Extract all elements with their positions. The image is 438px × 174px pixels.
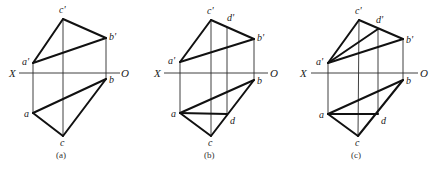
point-label-a: a [24, 108, 29, 119]
figure-b: X O a' b' c' d' a b c d (b) [153, 5, 278, 160]
axis-x-label: X [8, 67, 17, 79]
projector-c [358, 20, 359, 136]
edge-a-b [180, 80, 254, 113]
edge-a-prime-b-prime [180, 39, 254, 62]
point-label-b-prime: b' [109, 31, 117, 42]
edge-a-prime-c-prime [33, 19, 63, 63]
axis-x-label: X [299, 67, 308, 79]
edge-c-b [63, 79, 106, 136]
edge-a-c [328, 114, 358, 136]
point-label-b-prime: b' [257, 32, 265, 43]
edge-a-c [33, 113, 63, 136]
point-label-c: c [355, 137, 360, 148]
point-label-c-prime: c' [207, 5, 214, 16]
edge-c-b [358, 80, 403, 136]
figure-caption: (c) [351, 150, 361, 160]
axis-o-label: O [420, 67, 428, 79]
projection-diagrams-svg: X O a' b' c' a b c (a) X O [0, 0, 438, 174]
edge-a-prime-b-prime [328, 39, 403, 63]
figure-a: X O a' b' c' a b c (a) [8, 4, 129, 160]
point-label-c-prime: c' [355, 5, 362, 16]
edge-a-d [180, 113, 227, 114]
point-label-d-prime: d' [227, 12, 235, 23]
edge-c-prime-b-prime [63, 19, 106, 38]
point-label-a-prime: a' [168, 55, 176, 66]
figure-c: X O a' b' c' d' a b c d (c) [299, 5, 428, 160]
edge-a-c [180, 113, 211, 136]
figure-caption: (a) [56, 150, 66, 160]
point-label-b: b [257, 75, 262, 86]
point-label-b: b [406, 75, 411, 86]
edge-a-prime-c-prime [328, 20, 359, 63]
point-label-b-prime: b' [406, 34, 414, 45]
axis-x-label: X [153, 67, 162, 79]
edge-a-prime-c-prime [180, 20, 211, 62]
point-label-c-prime: c' [59, 4, 66, 15]
edge-a-b [33, 79, 106, 113]
point-label-d: d [230, 115, 236, 126]
point-label-a-prime: a' [316, 56, 324, 67]
point-label-d: d [381, 115, 387, 126]
point-label-b: b [109, 74, 114, 85]
point-label-a: a [171, 108, 176, 119]
point-label-a: a [319, 109, 324, 120]
point-label-d-prime: d' [376, 14, 384, 25]
point-label-c: c [208, 137, 213, 148]
figure-caption: (b) [204, 150, 215, 160]
axis-o-label: O [121, 67, 129, 79]
point-label-c: c [60, 137, 65, 148]
edge-a-prime-d-prime [328, 29, 378, 63]
edge-a-b [328, 80, 403, 114]
edge-a-prime-b-prime [33, 38, 106, 63]
point-label-a-prime: a' [22, 56, 30, 67]
edge-c-b [211, 80, 254, 136]
orthographic-projection-figure: X O a' b' c' a b c (a) X O [0, 0, 438, 174]
axis-o-label: O [270, 67, 278, 79]
